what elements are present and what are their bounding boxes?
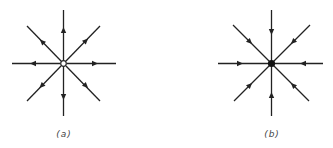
arrow-in-icon: [269, 29, 274, 35]
panel-a-source: [12, 10, 116, 116]
arrow-out-icon: [30, 61, 36, 66]
radial-field-diagram: [0, 0, 333, 148]
ray-up-right: [66, 26, 100, 61]
ray-down-right: [66, 66, 100, 101]
ray-down-right: [272, 64, 310, 102]
arrow-in-icon: [300, 61, 306, 66]
arrow-out-icon: [61, 94, 66, 100]
panel-a-label: (a): [56, 129, 72, 139]
arrow-out-icon: [61, 27, 66, 33]
open-circle-source-icon: [61, 61, 67, 67]
panel-b-label: (b): [264, 129, 280, 139]
filled-dot-sink-icon: [268, 60, 275, 67]
ray-up-right: [272, 25, 311, 64]
arrow-in-icon: [237, 61, 243, 66]
ray-down-left: [27, 66, 61, 101]
arrow-out-icon: [92, 61, 98, 66]
panel-b-sink: [218, 10, 323, 116]
ray-up-left: [233, 25, 272, 64]
ray-down-left: [234, 64, 272, 102]
arrow-in-icon: [269, 92, 274, 98]
